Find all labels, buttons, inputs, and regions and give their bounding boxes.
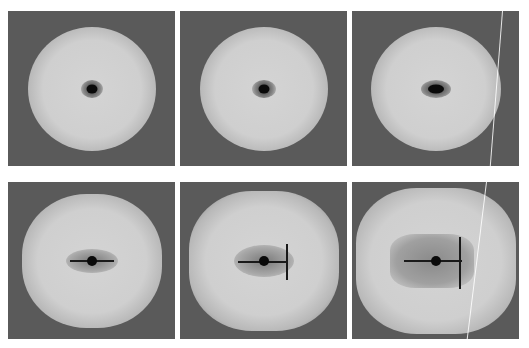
dark-core <box>259 256 269 266</box>
image-panel-bottom-middle <box>180 182 347 339</box>
dark-core <box>86 84 97 93</box>
dark-core <box>258 84 269 93</box>
image-panel-top-middle <box>180 11 347 166</box>
dark-core <box>428 84 444 93</box>
image-panel-bottom-left <box>8 182 175 339</box>
vertical-crack-branch <box>459 237 461 289</box>
image-panel-top-left <box>8 11 175 166</box>
image-panel-top-right <box>352 11 519 166</box>
image-panel-bottom-right <box>352 182 519 339</box>
vertical-crack-branch <box>286 244 288 280</box>
dark-core <box>87 256 97 266</box>
dark-core <box>431 256 441 266</box>
